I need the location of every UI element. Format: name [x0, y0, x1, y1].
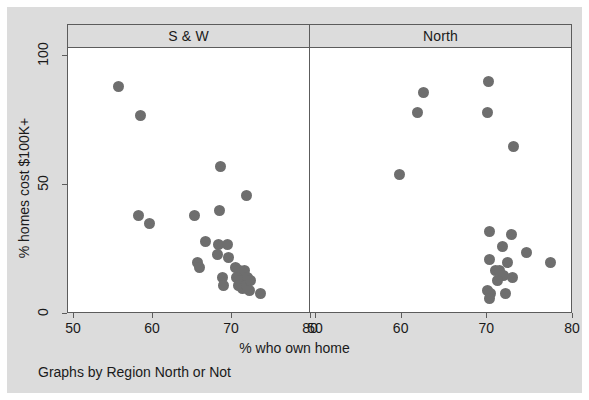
scatter-point	[135, 110, 146, 121]
scatter-point	[200, 236, 211, 247]
chart-figure: S & W North 5060708050607080 050100 % ho…	[0, 0, 589, 400]
panel-title-north: North	[309, 24, 572, 48]
x-tick-label: 60	[132, 320, 172, 336]
y-tick-label: 0	[35, 295, 51, 329]
x-tick	[152, 313, 153, 318]
scatter-point	[255, 288, 266, 299]
x-tick	[231, 313, 232, 318]
scatter-point	[113, 81, 124, 92]
scatter-point	[484, 226, 495, 237]
scatter-point	[194, 262, 205, 273]
x-tick	[315, 313, 316, 318]
panel-title-north-label: North	[423, 28, 458, 44]
scatter-point	[418, 87, 429, 98]
scatter-point	[222, 239, 233, 250]
y-tick-label: 100	[35, 37, 51, 71]
scatter-point	[483, 76, 494, 87]
x-tick	[486, 313, 487, 318]
scatter-point	[545, 257, 556, 268]
y-tick	[62, 313, 67, 314]
x-tick-label: 50	[295, 320, 335, 336]
x-tick-label: 60	[381, 320, 421, 336]
scatter-point	[492, 275, 503, 286]
scatter-point	[507, 272, 518, 283]
y-tick-label: 50	[35, 166, 51, 200]
y-axis-title: % homes cost $100K+	[16, 78, 32, 298]
scatter-point	[189, 210, 200, 221]
y-tick	[62, 55, 67, 56]
scatter-point	[412, 107, 423, 118]
scatter-point	[241, 190, 252, 201]
y-tick	[62, 184, 67, 185]
scatter-point	[212, 249, 223, 260]
x-tick	[310, 313, 311, 318]
scatter-point	[223, 252, 234, 263]
x-tick-label: 80	[552, 320, 589, 336]
scatter-point	[218, 280, 229, 291]
scatter-point	[215, 161, 226, 172]
scatter-point	[214, 205, 225, 216]
x-tick	[572, 313, 573, 318]
scatter-point	[521, 247, 532, 258]
x-tick	[401, 313, 402, 318]
scatter-point	[484, 254, 495, 265]
x-tick-label: 70	[466, 320, 506, 336]
plot-area-north	[309, 47, 572, 313]
scatter-point	[506, 229, 517, 240]
graph-note: Graphs by Region North or Not	[38, 364, 231, 380]
scatter-point	[484, 293, 495, 304]
x-tick-label: 70	[211, 320, 251, 336]
scatter-point	[497, 241, 508, 252]
scatter-point	[133, 210, 144, 221]
scatter-point	[244, 285, 255, 296]
scatter-point	[394, 169, 405, 180]
panel-title-sw-label: S & W	[168, 28, 209, 44]
scatter-point	[144, 218, 155, 229]
x-tick	[73, 313, 74, 318]
panel-title-sw: S & W	[67, 24, 310, 48]
scatter-point	[482, 107, 493, 118]
scatter-point	[508, 141, 519, 152]
scatter-point	[500, 288, 511, 299]
x-axis-title: % who own home	[0, 340, 589, 356]
plot-area-sw	[67, 47, 310, 313]
